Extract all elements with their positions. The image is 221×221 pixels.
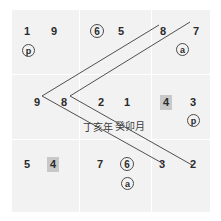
grid-cell-r2c1[interactable]: 7 6 a bbox=[80, 140, 152, 212]
grid-cell-r0c0[interactable]: 1 9 p bbox=[12, 10, 80, 75]
grid-cell-r0c2[interactable]: 8 7 a bbox=[152, 10, 210, 75]
circled-a-marker: a bbox=[121, 177, 134, 190]
cell-number-primary: 5 bbox=[24, 159, 30, 170]
circled-p-marker: p bbox=[187, 114, 200, 127]
grid-cell-r2c0[interactable]: 5 4 bbox=[12, 140, 80, 212]
grid-cell-r1c0[interactable]: 9 8 bbox=[12, 75, 80, 140]
grid-cell-r0c1[interactable]: 6 5 bbox=[80, 10, 152, 75]
number-grid: 1 9 p 6 5 8 7 a 9 8 2 1 4 3 p 5 bbox=[12, 10, 210, 212]
circled-a-marker: a bbox=[176, 43, 189, 56]
cell-number-secondary: 3 bbox=[190, 97, 196, 108]
circled-six-marker: 6 bbox=[120, 157, 134, 171]
cell-number-primary-highlighted: 4 bbox=[160, 95, 172, 110]
cell-number-secondary: 2 bbox=[190, 159, 196, 170]
cell-number-primary: 1 bbox=[24, 26, 30, 37]
cell-number-secondary: 5 bbox=[118, 26, 124, 37]
cell-number-primary: 8 bbox=[160, 26, 166, 37]
cell-number-secondary: 8 bbox=[61, 97, 67, 108]
month-annotation-label: 癸卯月 bbox=[115, 118, 145, 133]
cell-number-primary: 3 bbox=[159, 159, 165, 170]
cell-number-secondary: 7 bbox=[193, 26, 199, 37]
cell-number-primary: 7 bbox=[97, 159, 103, 170]
grid-cell-r2c2[interactable]: 3 2 bbox=[152, 140, 210, 212]
cell-number-primary: 9 bbox=[34, 97, 40, 108]
circled-six-marker: 6 bbox=[90, 24, 104, 38]
grid-cell-r1c2[interactable]: 4 3 p bbox=[152, 75, 210, 140]
year-annotation-label: 丁亥年 bbox=[83, 119, 113, 134]
cell-number-primary: 2 bbox=[98, 97, 104, 108]
cell-number-secondary-highlighted: 4 bbox=[47, 157, 59, 172]
circled-p-marker: p bbox=[22, 44, 35, 57]
cell-number-secondary: 9 bbox=[51, 26, 57, 37]
divination-grid-chart: 1 9 p 6 5 8 7 a 9 8 2 1 4 3 p 5 bbox=[0, 0, 221, 221]
cell-number-secondary: 1 bbox=[124, 97, 130, 108]
